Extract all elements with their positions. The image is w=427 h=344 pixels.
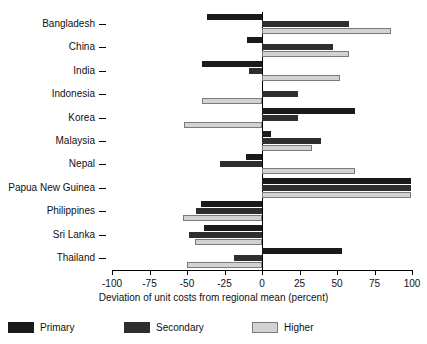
bar-sri-lanka-primary bbox=[204, 225, 263, 231]
bar-philippines-primary bbox=[201, 201, 263, 207]
bar-papua-new-guinea-primary bbox=[262, 178, 411, 184]
bar-indonesia-higher bbox=[202, 98, 262, 104]
x-tick-label: -100 bbox=[102, 278, 122, 289]
bar-malaysia-higher bbox=[262, 145, 312, 151]
bar-group bbox=[112, 59, 412, 82]
category-tick bbox=[99, 24, 106, 25]
bar-korea-secondary bbox=[262, 115, 298, 121]
x-tick-label: 100 bbox=[404, 278, 421, 289]
bar-china-secondary bbox=[262, 44, 333, 50]
bar-korea-primary bbox=[262, 108, 355, 114]
category-label: China bbox=[69, 41, 95, 52]
bar-group bbox=[112, 176, 412, 199]
x-tick bbox=[262, 270, 263, 275]
bar-india-secondary bbox=[249, 68, 263, 74]
bar-papua-new-guinea-secondary bbox=[262, 185, 411, 191]
legend-label: Primary bbox=[40, 322, 74, 333]
x-tick-label: -75 bbox=[142, 278, 156, 289]
category-label: Sri Lanka bbox=[53, 229, 95, 240]
bar-sri-lanka-secondary bbox=[189, 232, 263, 238]
x-tick bbox=[412, 270, 413, 275]
category-label: Malaysia bbox=[56, 135, 95, 146]
bar-group bbox=[112, 35, 412, 58]
x-tick bbox=[187, 270, 188, 275]
bar-nepal-primary bbox=[246, 154, 263, 160]
category-label: India bbox=[73, 65, 95, 76]
bar-group bbox=[112, 12, 412, 35]
bar-philippines-higher bbox=[183, 215, 263, 221]
category-label: Nepal bbox=[69, 158, 95, 169]
bar-group bbox=[112, 247, 412, 270]
category-label: Thailand bbox=[57, 252, 95, 263]
category-label: Indonesia bbox=[52, 88, 95, 99]
bar-bangladesh-primary bbox=[207, 14, 263, 20]
bar-indonesia-secondary bbox=[262, 91, 298, 97]
bar-group bbox=[112, 153, 412, 176]
category-label: Papua New Guinea bbox=[8, 182, 95, 193]
x-tick-label: -50 bbox=[180, 278, 194, 289]
x-tick bbox=[337, 270, 338, 275]
bar-group bbox=[112, 223, 412, 246]
bar-malaysia-primary bbox=[262, 131, 271, 137]
bar-sri-lanka-higher bbox=[195, 239, 263, 245]
chart-legend: PrimarySecondaryHigher bbox=[8, 320, 427, 336]
bar-china-primary bbox=[247, 37, 262, 43]
x-tick-label: 50 bbox=[331, 278, 342, 289]
bar-philippines-secondary bbox=[196, 208, 262, 214]
x-tick-label: 75 bbox=[369, 278, 380, 289]
category-label: Bangladesh bbox=[42, 18, 95, 29]
legend-item-primary[interactable]: Primary bbox=[8, 320, 74, 334]
legend-label: Secondary bbox=[156, 322, 204, 333]
category-tick bbox=[99, 211, 106, 212]
bar-india-higher bbox=[262, 75, 340, 81]
bar-korea-higher bbox=[184, 122, 262, 128]
legend-swatch-icon bbox=[252, 322, 278, 333]
x-tick-label: -25 bbox=[217, 278, 231, 289]
x-tick-label: 0 bbox=[259, 278, 265, 289]
category-tick bbox=[99, 94, 106, 95]
category-tick bbox=[99, 164, 106, 165]
bar-india-primary bbox=[202, 61, 262, 67]
bar-nepal-higher bbox=[262, 168, 355, 174]
bar-china-higher bbox=[262, 51, 349, 57]
bar-group bbox=[112, 200, 412, 223]
bar-nepal-secondary bbox=[220, 161, 262, 167]
category-tick bbox=[99, 47, 106, 48]
x-tick bbox=[150, 270, 151, 275]
x-tick bbox=[225, 270, 226, 275]
legend-item-secondary[interactable]: Secondary bbox=[124, 320, 204, 334]
bar-group bbox=[112, 106, 412, 129]
category-tick bbox=[99, 235, 106, 236]
legend-swatch-icon bbox=[8, 322, 34, 333]
x-tick-label: 25 bbox=[294, 278, 305, 289]
x-tick bbox=[112, 270, 113, 275]
bar-thailand-higher bbox=[187, 262, 262, 268]
category-tick bbox=[99, 71, 106, 72]
x-axis-title: Deviation of unit costs from regional me… bbox=[0, 292, 427, 303]
bar-chart: BangladeshChinaIndiaIndonesiaKoreaMalays… bbox=[0, 0, 427, 344]
category-tick bbox=[99, 258, 106, 259]
legend-label: Higher bbox=[284, 322, 313, 333]
category-tick bbox=[99, 118, 106, 119]
category-tick bbox=[99, 188, 106, 189]
category-axis: BangladeshChinaIndiaIndonesiaKoreaMalays… bbox=[0, 12, 112, 270]
legend-swatch-icon bbox=[124, 322, 150, 333]
plot-area bbox=[112, 12, 412, 270]
category-tick bbox=[99, 141, 106, 142]
bar-bangladesh-higher bbox=[262, 28, 391, 34]
x-tick bbox=[300, 270, 301, 275]
bar-thailand-primary bbox=[262, 248, 342, 254]
legend-item-higher[interactable]: Higher bbox=[252, 320, 313, 334]
category-label: Korea bbox=[68, 112, 95, 123]
x-tick bbox=[375, 270, 376, 275]
bar-malaysia-secondary bbox=[262, 138, 321, 144]
bar-bangladesh-secondary bbox=[262, 21, 349, 27]
bar-thailand-secondary bbox=[234, 255, 263, 261]
bar-papua-new-guinea-higher bbox=[262, 192, 411, 198]
category-label: Philippines bbox=[47, 205, 95, 216]
bar-group bbox=[112, 82, 412, 105]
bar-group bbox=[112, 129, 412, 152]
